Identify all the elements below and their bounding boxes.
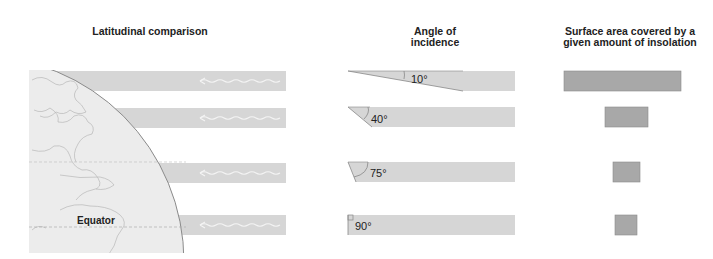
angle-row-75: 75° xyxy=(348,162,515,182)
angle-row-90: 90° xyxy=(348,215,515,235)
angle-of-incidence: 10° 40° 75° 90° xyxy=(348,71,515,235)
surface-area-boxes xyxy=(564,71,681,235)
area-box-10 xyxy=(564,71,681,91)
area-box-75 xyxy=(613,162,640,182)
angle-label: 40° xyxy=(371,113,388,125)
angle-row-40: 40° xyxy=(348,107,515,127)
angle-label: 75° xyxy=(370,167,387,179)
angle-label: 10° xyxy=(411,73,428,85)
angle-row-10: 10° xyxy=(348,71,515,91)
area-box-40 xyxy=(605,107,648,127)
angle-label: 90° xyxy=(355,220,372,232)
insolation-diagram: Equator 10° 40° 75° 90° xyxy=(0,0,713,259)
area-box-90 xyxy=(615,215,637,235)
equator-label: Equator xyxy=(77,215,115,226)
